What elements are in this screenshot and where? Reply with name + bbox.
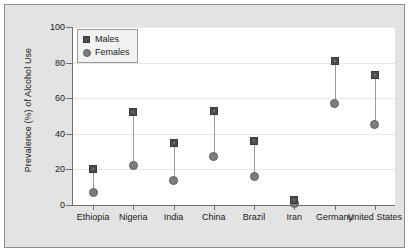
chart-legend: Males Females bbox=[77, 29, 138, 63]
data-point-male bbox=[331, 57, 339, 65]
x-tick bbox=[375, 206, 376, 210]
y-tick bbox=[66, 134, 72, 135]
y-tick-label: 60 bbox=[41, 94, 65, 103]
x-tick bbox=[174, 206, 175, 210]
connector-line bbox=[335, 61, 336, 104]
gridline bbox=[73, 98, 395, 99]
legend-label-females: Females bbox=[95, 48, 130, 57]
x-tick bbox=[93, 206, 94, 210]
data-point-female bbox=[169, 176, 178, 185]
legend-item-males: Males bbox=[83, 33, 130, 46]
y-tick-label: 0 bbox=[41, 201, 65, 210]
gridline bbox=[73, 27, 395, 28]
gridline bbox=[73, 169, 395, 170]
data-point-male bbox=[290, 196, 298, 204]
circle-marker-icon bbox=[83, 49, 91, 57]
data-point-male bbox=[210, 107, 218, 115]
y-axis-title: Prevalence (%) of Alcohol Use bbox=[23, 25, 33, 195]
y-tick-label: 20 bbox=[41, 165, 65, 174]
x-tick bbox=[214, 206, 215, 210]
square-marker-icon bbox=[83, 36, 90, 43]
x-axis-line bbox=[73, 205, 395, 206]
x-tick-label: United States bbox=[345, 212, 405, 222]
legend-item-females: Females bbox=[83, 46, 130, 59]
data-point-male bbox=[371, 71, 379, 79]
x-tick bbox=[335, 206, 336, 210]
x-tick bbox=[133, 206, 134, 210]
y-tick bbox=[66, 205, 72, 206]
data-point-female bbox=[250, 172, 259, 181]
y-tick bbox=[66, 169, 72, 170]
x-tick bbox=[254, 206, 255, 210]
y-tick-label: 100 bbox=[41, 23, 65, 32]
gridline bbox=[73, 134, 395, 135]
connector-line bbox=[133, 112, 134, 165]
data-point-male bbox=[250, 137, 258, 145]
y-axis-line bbox=[72, 27, 73, 206]
data-point-male bbox=[89, 165, 97, 173]
y-tick bbox=[66, 27, 72, 28]
connector-line bbox=[214, 111, 215, 157]
y-tick bbox=[66, 98, 72, 99]
y-tick-label: 80 bbox=[41, 59, 65, 68]
connector-line bbox=[375, 75, 376, 125]
data-point-male bbox=[170, 139, 178, 147]
data-point-male bbox=[129, 108, 137, 116]
data-point-female bbox=[89, 188, 98, 197]
connector-line bbox=[174, 143, 175, 180]
chart-panel: Prevalence (%) of Alcohol Use 0204060801… bbox=[4, 4, 405, 248]
y-tick-label: 40 bbox=[41, 130, 65, 139]
legend-label-males: Males bbox=[95, 35, 119, 44]
y-tick bbox=[66, 63, 72, 64]
chart-figure: Prevalence (%) of Alcohol Use 0204060801… bbox=[0, 0, 409, 252]
